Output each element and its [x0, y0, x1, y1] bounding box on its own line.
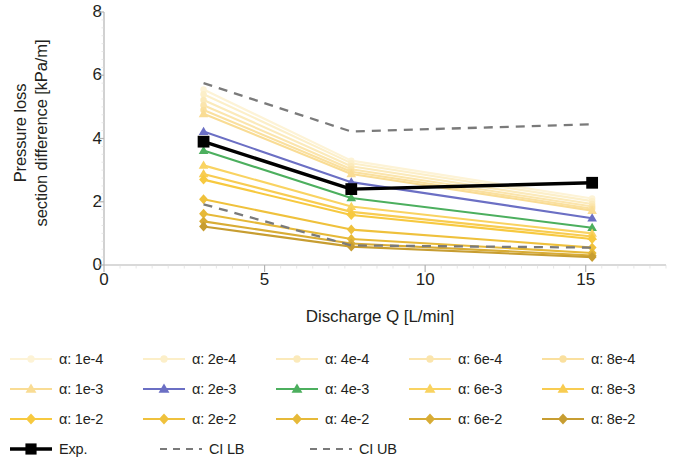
legend-row: α: 1e-2α: 2e-2α: 4e-2α: 6e-2α: 8e-2	[8, 404, 673, 434]
diamond-marker	[558, 413, 568, 424]
legend-item--1e-4[interactable]: α: 1e-4	[8, 350, 141, 368]
legend-label: α: 1e-2	[59, 411, 103, 427]
circle-marker	[559, 355, 566, 362]
legend-key-swatch	[274, 380, 320, 398]
legend-key-swatch	[158, 440, 204, 458]
circle-marker	[27, 355, 34, 362]
legend-label: Exp.	[59, 441, 87, 457]
series-line	[204, 83, 593, 131]
circle-marker	[200, 91, 206, 97]
legend-item--8e-3[interactable]: α: 8e-3	[540, 380, 673, 398]
legend-row: α: 1e-3α: 2e-3α: 4e-3α: 6e-3α: 8e-3	[8, 374, 673, 404]
legend-label: α: 2e-2	[192, 411, 236, 427]
legend-row: Exp.CI LBCI UB	[8, 434, 673, 464]
legend-key-swatch	[407, 410, 453, 428]
diamond-marker	[292, 413, 302, 424]
diamond-marker	[159, 413, 169, 424]
square-marker	[586, 177, 598, 189]
legend-key-swatch	[407, 380, 453, 398]
legend-key-swatch	[141, 350, 187, 368]
diamond-marker	[425, 413, 435, 424]
legend-item-ci-lb[interactable]: CI LB	[158, 440, 308, 458]
legend-key-swatch	[8, 410, 54, 428]
legend-label: α: 2e-3	[192, 381, 236, 397]
legend-key-swatch	[274, 410, 320, 428]
circle-marker	[160, 355, 167, 362]
triangle-marker	[199, 161, 209, 169]
legend-item--6e-3[interactable]: α: 6e-3	[407, 380, 540, 398]
legend-label: α: 8e-3	[591, 381, 635, 397]
legend-label: α: 4e-4	[325, 351, 369, 367]
legend-key-swatch	[141, 380, 187, 398]
legend-label: CI LB	[209, 441, 244, 457]
diamond-marker	[347, 225, 356, 235]
series-line	[204, 132, 593, 219]
legend-key-swatch	[540, 410, 586, 428]
legend-item--4e-3[interactable]: α: 4e-3	[274, 380, 407, 398]
series-exp-	[198, 136, 598, 195]
series-line	[204, 114, 593, 211]
x-axis-label: Discharge Q [L/min]	[120, 307, 640, 327]
legend-key-swatch	[407, 350, 453, 368]
legend-key-swatch	[308, 440, 354, 458]
legend-item-ci-ub[interactable]: CI UB	[308, 440, 458, 458]
legend-item--4e-4[interactable]: α: 4e-4	[274, 350, 407, 368]
legend-item--8e-4[interactable]: α: 8e-4	[540, 350, 673, 368]
legend-label: α: 2e-4	[192, 351, 236, 367]
legend-key-swatch	[8, 350, 54, 368]
legend-item--1e-3[interactable]: α: 1e-3	[8, 380, 141, 398]
legend-key-swatch	[8, 380, 54, 398]
triangle-marker	[199, 127, 209, 135]
legend-label: α: 6e-4	[458, 351, 502, 367]
square-marker	[345, 183, 357, 195]
plot-area: Pressure loss section difference [kPa/m]…	[0, 0, 675, 345]
triangle-marker	[199, 109, 209, 117]
legend-item--1e-2[interactable]: α: 1e-2	[8, 410, 141, 428]
legend-item-exp-[interactable]: Exp.	[8, 440, 158, 458]
legend-item--2e-4[interactable]: α: 2e-4	[141, 350, 274, 368]
plot-canvas	[0, 0, 675, 345]
diamond-marker	[199, 221, 208, 231]
legend-label: α: 1e-4	[59, 351, 103, 367]
square-marker	[25, 443, 36, 454]
legend-label: α: 8e-4	[591, 351, 635, 367]
circle-marker	[293, 355, 300, 362]
legend-key-swatch	[540, 380, 586, 398]
legend-label: α: 1e-3	[59, 381, 103, 397]
legend-label: α: 6e-2	[458, 411, 502, 427]
legend-label: CI UB	[359, 441, 397, 457]
series-ci-ub	[204, 83, 593, 131]
legend-item--6e-2[interactable]: α: 6e-2	[407, 410, 540, 428]
legend-item--2e-3[interactable]: α: 2e-3	[141, 380, 274, 398]
legend-item--8e-2[interactable]: α: 8e-2	[540, 410, 673, 428]
legend-label: α: 8e-2	[591, 411, 635, 427]
legend-item--6e-4[interactable]: α: 6e-4	[407, 350, 540, 368]
chart-legend: α: 1e-4α: 2e-4α: 4e-4α: 6e-4α: 8e-4α: 1e…	[8, 344, 673, 472]
legend-key-swatch	[540, 350, 586, 368]
legend-key-swatch	[141, 410, 187, 428]
legend-key-swatch	[8, 440, 54, 458]
legend-label: α: 4e-2	[325, 411, 369, 427]
legend-key-swatch	[274, 350, 320, 368]
diamond-marker	[26, 413, 36, 424]
square-marker	[198, 136, 210, 148]
legend-item--2e-2[interactable]: α: 2e-2	[141, 410, 274, 428]
circle-marker	[426, 355, 433, 362]
legend-item--4e-2[interactable]: α: 4e-2	[274, 410, 407, 428]
diamond-marker	[199, 194, 208, 204]
legend-label: α: 4e-3	[325, 381, 369, 397]
chart-root: Pressure loss section difference [kPa/m]…	[0, 0, 675, 475]
legend-row: α: 1e-4α: 2e-4α: 4e-4α: 6e-4α: 8e-4	[8, 344, 673, 374]
legend-label: α: 6e-3	[458, 381, 502, 397]
